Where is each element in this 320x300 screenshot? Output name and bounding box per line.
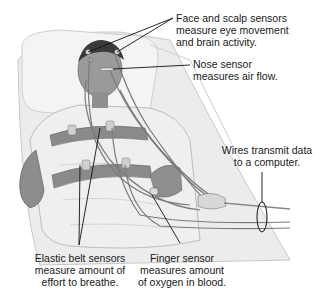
label-finger-sensor: Finger sensor measures amount of oxygen … <box>134 252 230 288</box>
label-nose-sensor: Nose sensor measures air flow. <box>193 58 278 82</box>
label-face-scalp-sensors: Face and scalp sensors measure eye movem… <box>176 12 289 48</box>
nose-sensor <box>101 68 113 71</box>
label-wires: Wires transmit data to a computer. <box>214 144 320 168</box>
label-elastic-belt-sensors: Elastic belt sensors measure amount of e… <box>24 252 136 288</box>
